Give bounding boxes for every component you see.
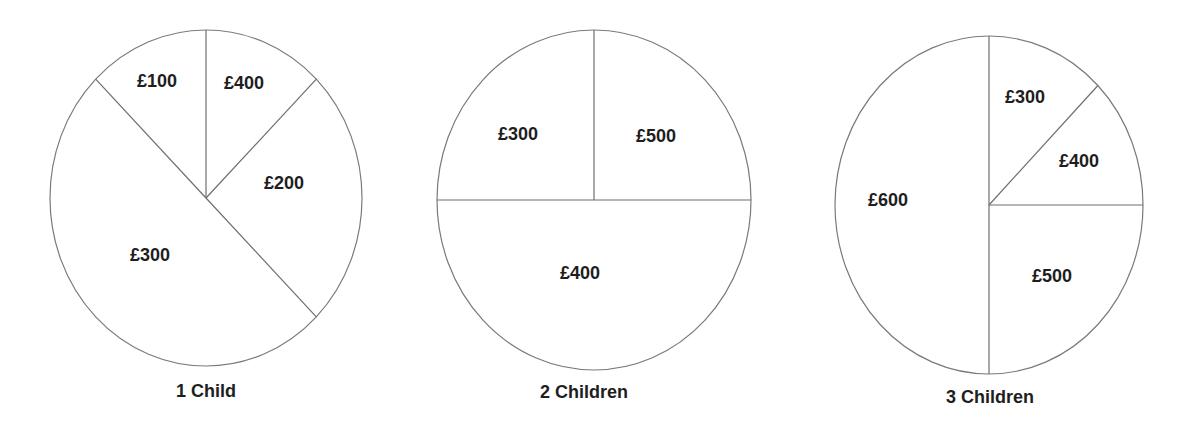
pie-chart-1-child: £100£400£200£3001 Child xyxy=(50,30,362,401)
slice-label: £100 xyxy=(137,71,177,91)
pie-chart-2-children: £300£500£4002 Children xyxy=(437,30,751,402)
slice-label: £500 xyxy=(1032,266,1072,286)
pie-chart-figure: £100£400£200£3001 Child £300£500£4002 Ch… xyxy=(0,0,1188,429)
slice-label: £400 xyxy=(1059,151,1099,171)
chart-title: 2 Children xyxy=(540,382,628,402)
slice-label: £500 xyxy=(636,126,676,146)
pie-chart-3-children: £300£400£500£6003 Children xyxy=(835,36,1143,407)
slice-label: £300 xyxy=(498,124,538,144)
slice-label: £300 xyxy=(130,245,170,265)
chart-title: 1 Child xyxy=(176,381,236,401)
slice-label: £400 xyxy=(560,263,600,283)
slice-label: £200 xyxy=(264,173,304,193)
chart-title: 3 Children xyxy=(946,387,1034,407)
slice-label: £600 xyxy=(868,190,908,210)
slice-label: £300 xyxy=(1005,87,1045,107)
slice-label: £400 xyxy=(224,73,264,93)
